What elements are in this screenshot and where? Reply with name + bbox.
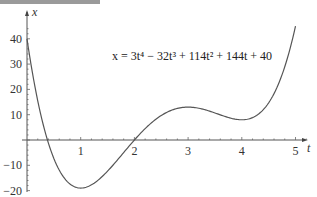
y-axis-arrow-icon	[25, 10, 29, 16]
chart: 1234540302010−10−20 x t	[0, 0, 317, 197]
x-axis-label: t	[307, 141, 311, 155]
y-axis-label: x	[31, 5, 38, 19]
svg-text:5: 5	[293, 144, 299, 158]
svg-text:2: 2	[131, 144, 137, 158]
svg-text:−10: −10	[3, 158, 22, 172]
svg-text:1: 1	[78, 144, 84, 158]
svg-text:40: 40	[10, 32, 22, 46]
svg-text:−20: −20	[3, 184, 22, 197]
svg-text:10: 10	[10, 108, 22, 122]
equation-label: x = 3t⁴ − 32t³ + 114t² + 144t + 40	[112, 49, 272, 64]
svg-text:20: 20	[10, 82, 22, 96]
svg-text:3: 3	[185, 144, 191, 158]
svg-text:4: 4	[239, 144, 245, 158]
svg-text:30: 30	[10, 57, 22, 71]
